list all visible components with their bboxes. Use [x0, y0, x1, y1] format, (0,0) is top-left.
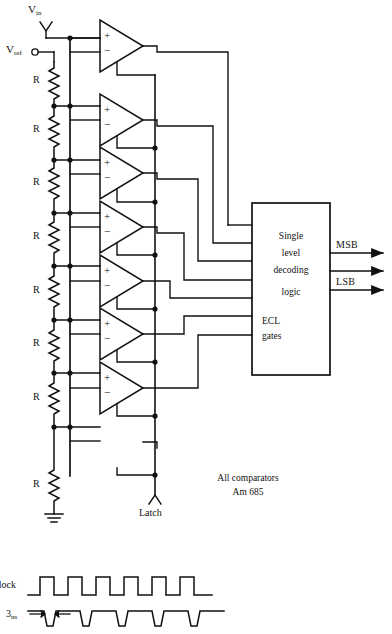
resistor-label-2: R: [33, 124, 40, 134]
logic-line-decoding: decoding: [252, 266, 330, 276]
wire-c7-out: [143, 335, 252, 388]
resistor-label-5: R: [33, 285, 40, 295]
vref-terminal: [32, 49, 54, 62]
resistor-label-8: R: [33, 479, 40, 489]
pulse-width-dimension: [30, 611, 70, 617]
comparator-5-minus: −: [104, 280, 110, 291]
comparator-3-minus: −: [104, 172, 110, 183]
resistor-label-3: R: [33, 177, 40, 187]
comparator-note-line2: Am 685: [188, 488, 308, 498]
comparator-7-plus: +: [104, 372, 110, 383]
logic-line-single: Single: [252, 232, 330, 242]
comparator-7-minus: −: [104, 387, 110, 398]
resistor-ladder: [49, 62, 59, 514]
pulse-width-label: 3ns: [6, 609, 17, 621]
comparator-6-minus: −: [104, 333, 110, 344]
latch-bottom-stub: [117, 468, 155, 475]
vin-taps: [70, 52, 100, 441]
circuit-schematic: [0, 0, 392, 634]
wire-c6-out: [143, 316, 252, 334]
msb-label: MSB: [336, 240, 358, 250]
resistor-label-4: R: [33, 231, 40, 241]
latch-label: Latch: [139, 508, 162, 518]
comparator-4-plus: +: [104, 211, 110, 222]
comparator-5-plus: +: [104, 265, 110, 276]
logic-line-logic: logic: [252, 288, 330, 298]
comparator-2-plus: +: [104, 104, 110, 115]
lsb-label: LSB: [336, 277, 355, 287]
vref-label: Vref: [6, 44, 22, 57]
ground-symbol: [45, 514, 63, 522]
comparator-4-minus: −: [104, 226, 110, 237]
logic-line-level: level: [252, 249, 330, 259]
resistor-label-6: R: [33, 338, 40, 348]
logic-line-gates: gates: [262, 332, 282, 342]
comparator-6-plus: +: [104, 318, 110, 329]
ladder-taps: [54, 106, 100, 373]
figure-canvas: Vin Vref R R R R R R R R + − + − + − + −…: [0, 0, 392, 634]
resistor-label-1: R: [33, 75, 40, 85]
comparator-2-minus: −: [104, 119, 110, 130]
comparator-1-plus: +: [104, 30, 110, 41]
wire-c3-out: [143, 173, 252, 261]
comparator-note-line1: All comparators: [188, 474, 308, 484]
vin-label: Vin: [28, 4, 41, 17]
latch-terminal: [149, 495, 161, 504]
clock-waveform-label: Clock: [0, 580, 16, 590]
comparator-3-plus: +: [104, 157, 110, 168]
resistor-label-7: R: [33, 392, 40, 402]
clock-waveform: [28, 577, 212, 595]
comparator-1-minus: −: [104, 45, 110, 56]
logic-line-ecl: ECL: [262, 317, 280, 327]
wire-c5-out: [143, 281, 252, 298]
